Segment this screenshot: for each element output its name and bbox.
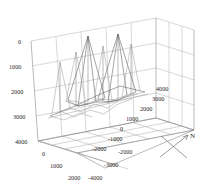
z-axis-tick-labels: 0 1000 2000 3000 4000 (9, 38, 27, 145)
z-tick-0: 0 (18, 38, 21, 45)
x-tick-2000: 2000 (68, 174, 80, 181)
z-tick-2000: 2000 (11, 88, 23, 95)
compass-north-label: N (190, 132, 195, 140)
z-tick-3000: 3000 (13, 113, 25, 120)
yfar-tick-2000: 2000 (140, 105, 152, 112)
yfar-tick-1000: 1000 (126, 115, 138, 122)
yfar-tick-neg1000: -1000 (108, 135, 122, 142)
data-mesh-spikes (48, 34, 148, 120)
x-tick-1000: 1000 (50, 162, 62, 169)
y-tick-neg4000: -4000 (88, 174, 102, 181)
plot-canvas: 0 1000 2000 3000 4000 0 1000 2000 -2000 … (0, 0, 217, 191)
y-axis-near-tick-labels: -2000 -3000 -4000 (88, 148, 132, 181)
x-tick-0: 0 (42, 150, 45, 157)
x-axis-tick-labels: 0 1000 2000 (42, 150, 80, 181)
yfar-tick-3000: 3000 (152, 95, 164, 102)
yfar-tick-neg2000: -2000 (92, 145, 106, 152)
y-tick-neg3000: -3000 (104, 161, 118, 168)
chart-3d-wireframe-plot: 0 1000 2000 3000 4000 0 1000 2000 -2000 … (0, 0, 217, 191)
z-tick-4000: 4000 (15, 138, 27, 145)
yfar-tick-0: 0 (120, 125, 123, 132)
yfar-tick-4000: 4000 (156, 85, 168, 92)
z-tick-1000: 1000 (9, 63, 21, 70)
back-right-wall-grid (156, 18, 194, 130)
y-tick-neg2000: -2000 (118, 148, 132, 155)
